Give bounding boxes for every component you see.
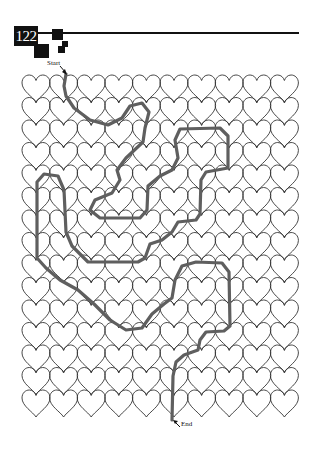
- start-arrow-icon: [60, 66, 67, 75]
- maze-board: [0, 0, 317, 453]
- start-label: Start: [47, 59, 60, 67]
- heart-grid: [22, 75, 298, 417]
- maze-page: 122 Start End: [0, 0, 317, 453]
- end-arrow-icon: [173, 420, 180, 427]
- solution-path: [37, 74, 230, 420]
- end-label: End: [181, 420, 192, 428]
